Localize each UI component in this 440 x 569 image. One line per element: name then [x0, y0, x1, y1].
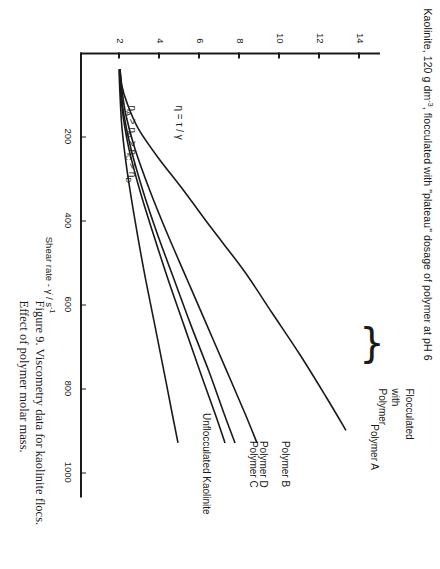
x-axis-tick: [80, 388, 86, 390]
curly-brace-icon: }: [359, 323, 384, 363]
y-axis-tick-label: 14: [355, 32, 366, 43]
x-axis-tick-label: 600: [63, 296, 74, 312]
ordering-eta-c: ηC: [127, 149, 138, 160]
viscosity-equation: η = τ / γ: [169, 105, 190, 182]
chart-title: Kaolinite, 120 g dm-3, flocculated with …: [422, 8, 435, 360]
y-axis-tick: [319, 52, 321, 58]
x-axis-title-superscript: -1: [49, 307, 56, 313]
y-axis-tick-label: 12: [315, 32, 326, 43]
flocculated-note: Flocculated with Polymer: [376, 388, 417, 439]
y-axis-tick: [239, 52, 241, 58]
x-axis-tick-label: 800: [63, 380, 74, 396]
x-axis-tick-label: 1000: [63, 461, 74, 482]
y-axis-tick-label: 8: [235, 38, 246, 43]
y-axis-tick: [359, 52, 361, 58]
ordering-gt-1: >: [127, 118, 138, 124]
x-axis-tick: [80, 136, 86, 138]
x-axis-tick: [80, 220, 86, 222]
x-axis-tick-label: 400: [63, 212, 74, 228]
x-axis-tick: [80, 304, 86, 306]
y-axis-tick: [119, 52, 121, 58]
ordering-eta-d: ηD: [127, 171, 138, 182]
chart-title-rest: , flocculated with "plateau" dosage of p…: [422, 106, 434, 360]
ordering-gt-2: >: [127, 140, 138, 146]
x-axis-title-text: Shear rate - γ̇ / s: [44, 236, 55, 306]
chart-title-superscript: -3: [427, 100, 434, 106]
chart-title-prefix: Kaolinite, 120 g dm: [422, 8, 434, 100]
ordering-eta-a: ηA: [127, 105, 138, 116]
y-axis-tick-label: 2: [115, 38, 126, 43]
ordering-eta-b: ηB: [127, 127, 138, 138]
equation-annotation: η = τ / γ ηA > ηB > ηC > ηD: [118, 105, 190, 182]
rotated-figure-stage: Kaolinite, 120 g dm-3, flocculated with …: [0, 0, 440, 569]
series-label: Polymer D: [258, 440, 269, 487]
y-axis-tick: [199, 52, 201, 58]
y-axis-tick: [279, 52, 281, 58]
y-axis-tick: [159, 52, 161, 58]
y-axis-tick-label: 4: [155, 38, 166, 43]
figure-root: Kaolinite, 120 g dm-3, flocculated with …: [0, 0, 440, 569]
x-axis-tick-label: 200: [63, 128, 74, 144]
series-label: Unflocculated Kaolinite: [201, 412, 212, 514]
series-label: Polymer C: [248, 440, 259, 487]
figure-caption: Figure 9. Viscometry data for kaolinite …: [16, 300, 48, 558]
y-axis-tick-label: 6: [195, 38, 206, 43]
flocculated-note-line1: Flocculated: [403, 388, 417, 439]
x-axis-tick: [80, 472, 86, 474]
viscosity-ordering: ηA > ηB > ηC > ηD: [118, 105, 143, 182]
series-label: Polymer B: [280, 440, 291, 486]
y-axis-tick-label: 10: [275, 32, 286, 43]
flocculated-note-line2: with: [389, 388, 403, 439]
ordering-gt-3: >: [127, 163, 138, 169]
flocculated-note-line3: Polymer: [376, 388, 390, 439]
